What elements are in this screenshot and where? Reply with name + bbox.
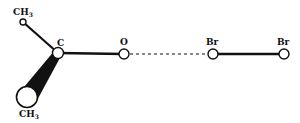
atom-br-2	[279, 49, 289, 59]
label-o: O	[120, 37, 128, 47]
label-c: C	[57, 38, 64, 48]
atom-ch3-top	[20, 19, 26, 25]
label-br-1: Br	[206, 37, 219, 47]
atom-c	[53, 48, 64, 59]
atom-ch3-bottom	[17, 87, 38, 108]
label-ch3-bottom: CH3	[19, 109, 39, 120]
bond-c-o	[58, 53, 124, 54]
bond-ch3-c	[23, 22, 58, 53]
label-br-2: Br	[277, 37, 290, 47]
molecule-diagram: CH3 C O Br Br CH3	[0, 0, 300, 123]
atom-o	[119, 49, 129, 59]
atom-br-1	[208, 49, 218, 59]
label-ch3-top: CH3	[13, 7, 33, 18]
